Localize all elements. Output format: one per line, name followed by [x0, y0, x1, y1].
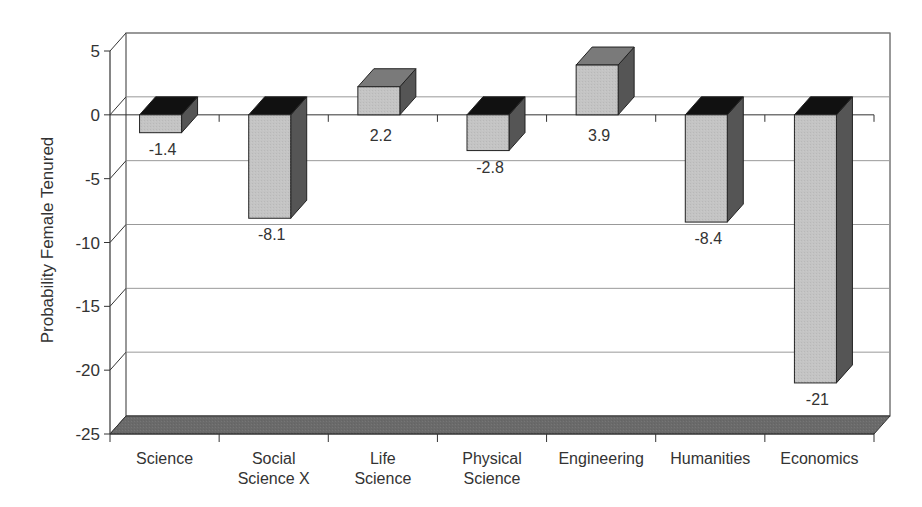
x-axis: ScienceSocialScience XLifeSciencePhysica… [110, 434, 874, 487]
bar-front-texture [576, 65, 618, 115]
bar [467, 97, 525, 151]
bar-chart: 50-5-10-15-20-25 ScienceSocialScience XL… [0, 0, 922, 507]
chart-walls [110, 33, 890, 434]
floor-texture [110, 416, 890, 434]
data-label: -2.8 [476, 159, 504, 176]
y-tick-label: 0 [91, 106, 100, 125]
bar-front-texture [467, 115, 509, 151]
data-label: -1.4 [149, 141, 177, 158]
data-label: 3.9 [588, 127, 610, 144]
gridline-side [110, 225, 126, 243]
x-tick-label: Science [464, 470, 521, 487]
gridline-side [110, 97, 126, 115]
x-tick-label: Science X [238, 470, 310, 487]
bar-front-texture [358, 87, 400, 115]
data-label: -21 [806, 391, 829, 408]
gridline-side [110, 352, 126, 370]
y-axis-title: Probability Female Tenured [38, 137, 57, 344]
x-tick-label: Life [370, 450, 396, 467]
bar-front-texture [794, 115, 836, 383]
gridlines [110, 33, 890, 434]
bar [140, 97, 198, 133]
x-tick-label: Engineering [558, 450, 643, 467]
bars [140, 47, 853, 383]
x-tick-label: Economics [780, 450, 858, 467]
chart-floor [110, 416, 890, 434]
data-label: -8.1 [258, 226, 286, 243]
gridline-side [110, 33, 126, 51]
bar [685, 97, 743, 222]
bar-side [727, 97, 743, 222]
y-tick-label: -10 [75, 234, 100, 253]
y-tick-label: 5 [91, 42, 100, 61]
data-label: -8.4 [694, 230, 722, 247]
data-label: 2.2 [370, 127, 392, 144]
x-tick-label: Social [252, 450, 296, 467]
bar [794, 97, 852, 383]
bar-side [836, 97, 852, 383]
bar-front-texture [140, 115, 182, 133]
bar [358, 69, 416, 115]
bar-front-texture [249, 115, 291, 218]
bar-side [291, 97, 307, 218]
x-tick-label: Physical [462, 450, 522, 467]
y-tick-label: -15 [75, 297, 100, 316]
bar [576, 47, 634, 115]
bar [249, 97, 307, 218]
x-tick-label: Science [136, 450, 193, 467]
x-tick-label: Humanities [670, 450, 750, 467]
gridline-side [110, 288, 126, 306]
y-tick-label: -20 [75, 361, 100, 380]
x-tick-label: Science [354, 470, 411, 487]
y-axis: 50-5-10-15-20-25 [75, 42, 110, 444]
gridline-side [110, 161, 126, 179]
y-tick-label: -5 [85, 170, 100, 189]
bar-front-texture [685, 115, 727, 222]
chart-canvas: 50-5-10-15-20-25 ScienceSocialScience XL… [0, 0, 922, 507]
y-tick-label: -25 [75, 425, 100, 444]
